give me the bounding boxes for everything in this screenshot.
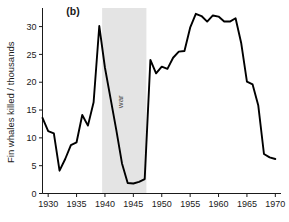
fin-whales-line-chart: war 051015202530 19301935194019451950195… bbox=[0, 0, 289, 222]
panel-label: (b) bbox=[66, 5, 79, 17]
series-group bbox=[43, 14, 276, 184]
x-tick-label: 1940 bbox=[95, 199, 115, 209]
x-tick-label: 1950 bbox=[152, 199, 172, 209]
y-tick-label: 15 bbox=[26, 105, 36, 115]
war-band-label: war bbox=[116, 95, 125, 109]
war-band-group: war bbox=[102, 8, 146, 194]
y-tick-label: 10 bbox=[26, 133, 36, 143]
x-tick-label: 1965 bbox=[237, 199, 257, 209]
x-tick-label: 1970 bbox=[265, 199, 285, 209]
chart-figure: war 051015202530 19301935194019451950195… bbox=[0, 0, 289, 222]
x-tick-label: 1960 bbox=[209, 199, 229, 209]
fin-whales-killed-line bbox=[43, 14, 276, 184]
x-tick-label: 1945 bbox=[123, 199, 143, 209]
y-tick-label: 0 bbox=[31, 189, 36, 199]
x-tick-label: 1935 bbox=[67, 199, 87, 209]
y-tick-label: 25 bbox=[26, 50, 36, 60]
y-axis-title: Fin whales killed / thousands bbox=[5, 41, 16, 163]
x-tick-label: 1955 bbox=[180, 199, 200, 209]
y-axis-ticks: 051015202530 bbox=[26, 22, 42, 199]
y-tick-label: 20 bbox=[26, 77, 36, 87]
x-axis-ticks: 193019351940194519501955196019651970 bbox=[38, 194, 285, 209]
y-tick-label: 30 bbox=[26, 22, 36, 32]
x-tick-label: 1930 bbox=[38, 199, 58, 209]
y-tick-label: 5 bbox=[31, 161, 36, 171]
axes-group: 051015202530 193019351940194519501955196… bbox=[26, 8, 285, 209]
